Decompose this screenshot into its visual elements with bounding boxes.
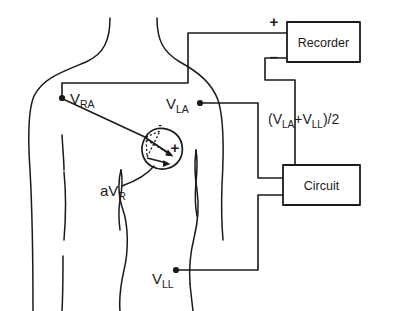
wire-left-leg-to-circuit bbox=[176, 195, 283, 270]
body-contour-4 bbox=[62, 256, 63, 311]
vla-main: V bbox=[166, 95, 176, 112]
vll-main: V bbox=[152, 270, 162, 287]
formula-part-1: LA bbox=[282, 119, 295, 130]
recorder-box-label: Recorder bbox=[298, 36, 349, 50]
left-leg-electrode-dot[interactable] bbox=[173, 267, 179, 273]
body-contour-9 bbox=[190, 284, 193, 311]
circuit-box[interactable]: Circuit bbox=[283, 165, 360, 205]
vla-sub: LA bbox=[176, 103, 189, 115]
avr-lead-diagram: - + Recorder Circuit + – VRA VLA bbox=[0, 0, 393, 311]
torso-outline bbox=[29, 18, 223, 311]
circuit-box-label: Circuit bbox=[304, 179, 340, 193]
vll-sub: LL bbox=[162, 278, 174, 290]
body-contour-2 bbox=[64, 172, 66, 240]
recorder-negative-terminal: – bbox=[270, 48, 278, 65]
heart-vector-arrowhead-lower bbox=[163, 160, 171, 167]
wire-right-arm-to-recorder-positive bbox=[62, 33, 287, 98]
diagram-canvas: - + Recorder Circuit + – VRA VLA bbox=[0, 0, 393, 311]
right-arm-electrode-label: VRA bbox=[70, 90, 95, 110]
avr-main: aV bbox=[100, 182, 118, 199]
recorder-positive-terminal: + bbox=[270, 13, 279, 30]
left-leg-electrode-label: VLL bbox=[152, 270, 174, 290]
formula-part-0: (V bbox=[268, 111, 283, 127]
formula-part-2: +V bbox=[294, 111, 312, 127]
heart-minus-sign: - bbox=[158, 118, 162, 130]
heart-vector-region: - + bbox=[122, 118, 182, 186]
formula-part-3: LL bbox=[312, 119, 324, 130]
wilson-average-formula: (VLA+VLL)/2 bbox=[268, 111, 339, 130]
formula-part-4: )/2 bbox=[323, 111, 340, 127]
left-arm-electrode-label: VLA bbox=[166, 95, 189, 115]
right-arm-electrode-dot[interactable] bbox=[59, 95, 65, 101]
recorder-box[interactable]: Recorder bbox=[287, 22, 360, 62]
vra-sub: RA bbox=[80, 98, 95, 110]
avr-sub: R bbox=[118, 190, 126, 202]
vra-main: V bbox=[70, 90, 80, 107]
heart-plus-sign: + bbox=[171, 139, 180, 156]
left-arm-electrode-dot[interactable] bbox=[197, 100, 203, 106]
avr-leader-line bbox=[122, 166, 154, 186]
body-contour-3 bbox=[62, 135, 64, 170]
body-contour-0 bbox=[29, 18, 110, 311]
